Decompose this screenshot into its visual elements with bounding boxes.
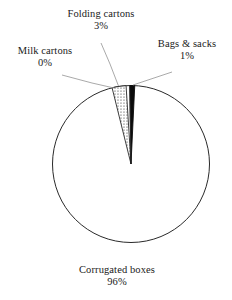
pie-label-bags-sacks-value: 1% [144,50,230,62]
pie-label-corrugated-boxes-name: Corrugated boxes [58,264,176,276]
leader-line-bags-sacks [133,72,172,85]
pie-label-milk-cartons-value: 0% [2,57,88,69]
pie-label-bags-sacks-name: Bags & sacks [144,38,230,50]
pie-label-folding-cartons-value: 3% [48,20,154,32]
leader-line-folding-cartons [101,43,119,86]
pie-label-folding-cartons: Folding cartons 3% [48,8,154,32]
pie-label-folding-cartons-name: Folding cartons [48,8,154,20]
pie-label-milk-cartons-name: Milk cartons [2,45,88,57]
pie-label-corrugated-boxes: Corrugated boxes 96% [58,264,176,288]
pie-label-corrugated-boxes-value: 96% [58,276,176,288]
pie-label-milk-cartons: Milk cartons 0% [2,45,88,69]
leader-line-milk-cartons [62,75,114,88]
pie-label-bags-sacks: Bags & sacks 1% [144,38,230,62]
pie-chart-figure: Folding cartons 3% Bags & sacks 1% Milk … [0,0,232,300]
